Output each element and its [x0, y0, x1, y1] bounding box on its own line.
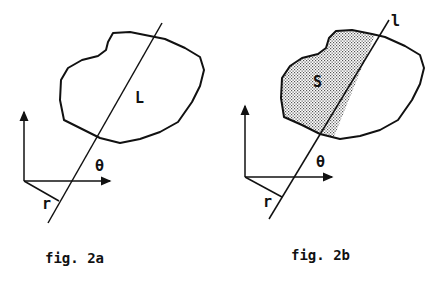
line-label-l: l [391, 14, 400, 29]
region-label-s: S [313, 75, 322, 90]
caption-fig-2b: fig. 2b [291, 248, 350, 262]
diagram-canvas [0, 0, 443, 281]
distance-label-r: r [263, 195, 272, 210]
figure-2b [245, 20, 424, 219]
caption-fig-2a: fig. 2a [45, 251, 104, 265]
line-l [48, 23, 162, 223]
region-outline [60, 32, 204, 143]
figure-2a [24, 23, 204, 223]
distance-label-r: r [42, 197, 51, 212]
angle-label-theta: θ [95, 159, 104, 174]
shaded-region-s [281, 30, 424, 139]
angle-label-theta: θ [316, 155, 325, 170]
region-label-l: L [135, 91, 144, 106]
